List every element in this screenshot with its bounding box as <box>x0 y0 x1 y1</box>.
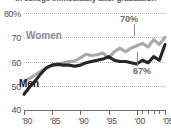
x-tick-label: '85 <box>50 116 60 126</box>
plot-area: 80% 70 60 50 40 '80'85'90'95'00'05 <box>24 13 165 110</box>
series-label-women: Women <box>26 30 62 41</box>
x-tick-label: '95 <box>107 116 117 126</box>
annotation-67-percent: 67% <box>133 66 151 76</box>
y-tick-label-70: 70 <box>12 33 21 43</box>
x-tick-label: '80 <box>22 116 32 126</box>
y-tick-label-40: 40 <box>12 105 21 115</box>
line-chart: in college immediately after graduation … <box>0 0 171 138</box>
x-tick-major <box>80 110 81 115</box>
chart-title: in college immediately after graduation <box>0 0 171 3</box>
annotation-70-leader <box>134 24 135 36</box>
y-tick-label-80: 80% <box>4 9 21 19</box>
x-axis-line <box>24 110 165 111</box>
x-tick-minor <box>154 110 155 114</box>
series-paths <box>24 13 165 110</box>
x-tick-label: '00 <box>135 116 145 126</box>
x-tick-major <box>52 110 53 115</box>
x-tick-minor <box>148 110 149 114</box>
x-tick-major <box>165 110 166 115</box>
y-tick-label-60: 60 <box>12 57 21 67</box>
x-tick-major <box>137 110 138 115</box>
annotation-70-percent: 70% <box>120 14 138 24</box>
x-tick-minor <box>142 110 143 114</box>
annotation-67-leader <box>137 52 138 66</box>
x-tick-major <box>24 110 25 115</box>
x-tick-label: '05 <box>163 116 171 126</box>
x-tick-major <box>109 110 110 115</box>
series-label-men: Men <box>19 78 39 89</box>
x-tick-label: '90 <box>78 116 88 126</box>
x-tick-minor <box>159 110 160 114</box>
